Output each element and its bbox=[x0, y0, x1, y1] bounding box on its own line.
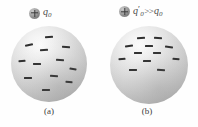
minus-charge-mark bbox=[125, 45, 133, 48]
minus-charge-mark bbox=[65, 81, 72, 84]
charge-symbol-a-subscript: 0 bbox=[48, 11, 52, 19]
minus-charge-mark bbox=[18, 60, 25, 62]
physics-figure-induced-charge: q0 (a) q′0>>q0 (b) bbox=[0, 0, 198, 127]
minus-charge-mark bbox=[42, 89, 50, 91]
minus-charge-mark bbox=[143, 60, 151, 62]
minus-charge-mark bbox=[145, 45, 153, 47]
minus-charge-mark bbox=[172, 57, 179, 60]
minus-charge-mark bbox=[62, 46, 70, 49]
minus-charge-mark bbox=[45, 35, 53, 38]
minus-charge-mark bbox=[50, 75, 58, 77]
charge-symbol-b: q′0>>q0 bbox=[133, 5, 163, 18]
minus-charge-mark bbox=[157, 68, 165, 70]
minus-charge-mark bbox=[154, 36, 162, 38]
charge-label-b: q′0>>q0 bbox=[119, 5, 163, 18]
minus-charge-mark bbox=[40, 49, 48, 51]
minus-charge-mark bbox=[119, 57, 126, 60]
minus-charge-mark bbox=[165, 46, 173, 49]
minus-charge-mark bbox=[137, 37, 145, 39]
minus-charge-mark bbox=[129, 69, 137, 71]
minus-charge-mark bbox=[24, 77, 32, 79]
charge-relation-b: >> bbox=[144, 6, 154, 16]
minus-charge-mark bbox=[134, 51, 142, 53]
conducting-sphere-a bbox=[11, 26, 87, 102]
minus-charge-mark bbox=[56, 59, 64, 62]
minus-charge-mark bbox=[70, 67, 77, 70]
minus-charge-mark bbox=[25, 43, 33, 47]
conducting-sphere-b bbox=[110, 26, 188, 104]
plus-charge-icon-a bbox=[29, 8, 40, 19]
charge-label-a: q0 bbox=[29, 7, 52, 19]
plus-charge-icon-b bbox=[119, 6, 130, 17]
charge-symbol-b2-subscript: 0 bbox=[159, 10, 163, 18]
minus-charge-mark bbox=[33, 63, 41, 65]
caption-b: (b) bbox=[126, 106, 168, 116]
minus-charge-mark bbox=[153, 52, 161, 54]
caption-a: (a) bbox=[28, 106, 70, 116]
charge-symbol-a: q0 bbox=[43, 7, 52, 19]
